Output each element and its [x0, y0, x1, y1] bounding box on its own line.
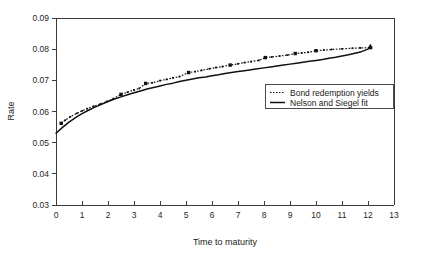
legend-label-nelson-siegel-fit: Nelson and Siegel fit — [290, 98, 369, 108]
data-point-marker — [106, 101, 108, 103]
x-tick-label: 13 — [389, 210, 399, 220]
y-tick-label: 0.05 — [32, 138, 49, 148]
data-point-marker — [258, 59, 260, 61]
x-tick-label: 4 — [158, 210, 163, 220]
x-tick-label: 8 — [262, 210, 267, 220]
legend-label-bond-redemption-yields: Bond redemption yields — [290, 88, 379, 98]
x-tick-label: 1 — [80, 210, 85, 220]
data-point-marker — [64, 119, 66, 121]
y-tick-label: 0.07 — [32, 75, 49, 85]
data-point-marker — [271, 56, 273, 58]
data-point-marker — [279, 55, 281, 57]
chart-canvas: 0.030.040.050.060.070.080.09 01234567891… — [0, 0, 422, 254]
x-tick-label: 11 — [338, 210, 347, 220]
x-tick-label: 6 — [210, 210, 215, 220]
data-point-marker — [187, 71, 190, 74]
data-point-marker — [144, 82, 147, 85]
y-tick-label: 0.09 — [32, 13, 49, 23]
data-point-marker — [81, 110, 83, 112]
data-point-marker — [244, 62, 246, 64]
data-point-marker — [209, 68, 211, 70]
data-point-marker — [133, 89, 135, 91]
data-point-marker — [99, 103, 101, 105]
x-tick-label: 0 — [54, 210, 59, 220]
x-tick-label: 5 — [184, 210, 189, 220]
x-tick-label: 10 — [311, 210, 321, 220]
data-point-marker — [352, 47, 354, 49]
data-point-marker — [264, 56, 267, 59]
data-point-marker — [86, 108, 88, 110]
x-tick-label: 3 — [132, 210, 137, 220]
x-tick-label: 7 — [236, 210, 241, 220]
data-point-marker — [76, 112, 78, 114]
data-point-marker — [307, 51, 309, 53]
data-point-marker — [301, 52, 303, 54]
data-point-marker — [215, 67, 217, 69]
data-point-marker — [166, 79, 168, 81]
data-point-marker — [287, 54, 289, 56]
legend: Bond redemption yields Nelson and Siegel… — [266, 85, 394, 109]
data-point-marker — [194, 71, 196, 73]
data-point-marker — [314, 49, 317, 52]
y-axis-title: Rate — [6, 101, 16, 120]
data-point-marker — [127, 91, 129, 93]
data-point-marker — [138, 88, 140, 90]
data-point-marker — [93, 105, 95, 107]
data-point-marker — [341, 48, 343, 50]
data-point-marker — [369, 46, 372, 49]
data-point-marker — [151, 82, 153, 84]
data-point-marker — [172, 77, 174, 79]
data-point-marker — [60, 122, 63, 125]
data-point-marker — [112, 98, 114, 100]
y-tick-label: 0.03 — [32, 200, 49, 210]
data-point-marker — [323, 49, 325, 51]
data-point-marker — [359, 47, 361, 49]
data-point-marker — [222, 66, 224, 68]
data-point-marker — [331, 49, 333, 51]
data-point-marker — [159, 80, 161, 82]
x-tick-label: 2 — [106, 210, 111, 220]
y-tick-label: 0.08 — [32, 44, 49, 54]
data-point-marker — [201, 69, 203, 71]
data-point-marker — [229, 63, 232, 66]
data-point-marker — [119, 93, 122, 96]
data-point-marker — [294, 52, 297, 55]
data-point-marker — [237, 63, 239, 65]
x-tick-label: 9 — [288, 210, 293, 220]
data-point-marker — [179, 76, 181, 78]
x-tick-label: 12 — [363, 210, 373, 220]
y-tick-label: 0.04 — [32, 169, 49, 179]
y-tick-label: 0.06 — [32, 107, 49, 117]
data-point-marker — [250, 61, 252, 63]
chart-figure: 0.030.040.050.060.070.080.09 01234567891… — [0, 0, 422, 254]
x-axis-title: Time to maturity — [193, 237, 258, 247]
data-point-marker — [69, 116, 71, 118]
